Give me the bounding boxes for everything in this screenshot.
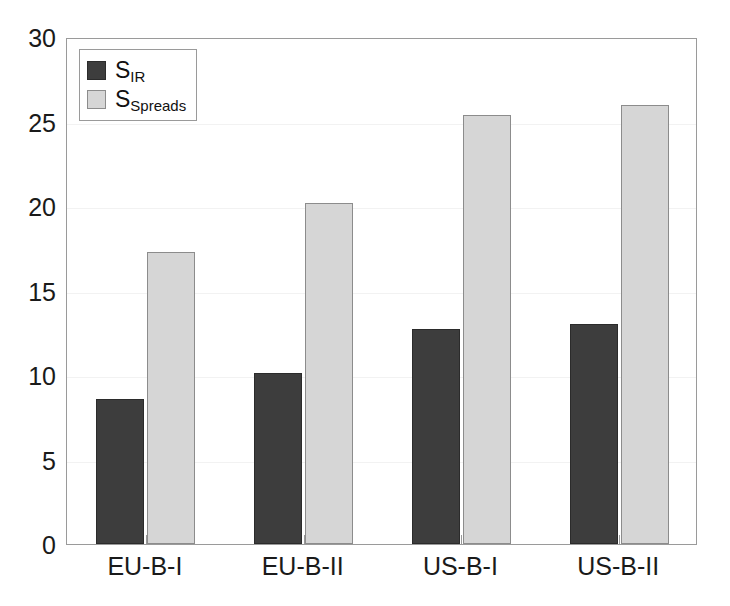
bar-s-spreads bbox=[147, 252, 195, 544]
bar-s-spreads bbox=[463, 115, 511, 544]
legend-label-s-spreads: SSpreads bbox=[115, 88, 186, 111]
legend-item-s-spreads: SSpreads bbox=[87, 85, 186, 114]
bar-s-ir bbox=[412, 329, 460, 544]
bar-s-ir bbox=[254, 373, 302, 544]
bar-s-ir bbox=[570, 324, 618, 544]
bar-s-spreads bbox=[621, 105, 669, 544]
y-axis-tick-label: 20 bbox=[0, 195, 56, 220]
legend-swatch-icon-s-ir bbox=[87, 61, 106, 80]
legend-swatch-icon-s-spreads bbox=[87, 90, 106, 109]
y-axis-tick-label: 25 bbox=[0, 110, 56, 135]
legend-item-s-ir: SIR bbox=[87, 56, 186, 85]
bar-s-ir bbox=[96, 399, 144, 544]
y-gridline bbox=[67, 124, 696, 125]
y-axis-tick-label: 5 bbox=[0, 448, 56, 473]
x-axis-tick-label: US-B-II bbox=[577, 554, 659, 579]
x-axis-tick-mark bbox=[461, 535, 462, 544]
legend: SIR SSpreads bbox=[79, 49, 197, 121]
bar-chart: 051015202530 SIR SSpreads EU-B-IEU-B-IIU… bbox=[0, 0, 730, 606]
plot-area: SIR SSpreads bbox=[66, 38, 697, 545]
x-axis-tick-label: EU-B-I bbox=[107, 554, 182, 579]
legend-label-s-ir: SIR bbox=[115, 59, 145, 82]
y-axis-tick-label: 30 bbox=[0, 26, 56, 51]
x-axis-tick-label: US-B-I bbox=[423, 554, 498, 579]
y-axis-tick-label: 15 bbox=[0, 279, 56, 304]
x-axis-tick-label: EU-B-II bbox=[262, 554, 344, 579]
bar-s-spreads bbox=[305, 203, 353, 544]
y-gridline bbox=[67, 208, 696, 209]
y-axis-tick-label: 10 bbox=[0, 364, 56, 389]
y-axis-tick-label: 0 bbox=[0, 533, 56, 558]
